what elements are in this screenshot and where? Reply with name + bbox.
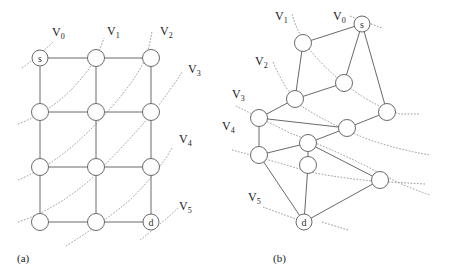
node-a30 bbox=[32, 214, 49, 231]
panel-b-level-labels: V0V1V2V3V4V5 bbox=[222, 9, 346, 206]
edge-b10-d bbox=[304, 180, 380, 222]
level-curve-v3 bbox=[18, 72, 182, 222]
panel-a-edges bbox=[40, 58, 151, 222]
node-a21 bbox=[88, 159, 105, 176]
level-label-v3: V3 bbox=[232, 87, 245, 103]
edge-b7-b10 bbox=[308, 143, 380, 180]
edge-s-b4 bbox=[362, 24, 387, 112]
level-label-v3: V3 bbox=[188, 62, 201, 78]
node-b8 bbox=[251, 147, 268, 164]
node-label-s: s bbox=[38, 53, 42, 64]
node-a02 bbox=[143, 50, 160, 67]
node-b7 bbox=[300, 135, 317, 152]
node-a11 bbox=[88, 104, 105, 121]
edge-b8-d bbox=[259, 155, 304, 222]
level-label-v5: V5 bbox=[248, 190, 261, 206]
panel-b-nodes: sd bbox=[251, 16, 396, 230]
edge-s-b1 bbox=[303, 24, 362, 43]
level-curve-b-v2 bbox=[273, 62, 430, 155]
edge-b5-b6 bbox=[259, 118, 347, 128]
node-a31 bbox=[88, 214, 105, 231]
level-label-v0: V0 bbox=[52, 25, 65, 41]
node-b4 bbox=[379, 104, 396, 121]
node-a12 bbox=[143, 104, 160, 121]
edge-s-b2 bbox=[344, 24, 362, 83]
panel-a-level-labels: V0V1V2V3V4V5 bbox=[52, 24, 201, 215]
panel-b-caption: (b) bbox=[273, 252, 286, 265]
diagram-canvas: sd sd V0V1V2V3V4V5 V0V1V2V3V4V5 (a) (b) bbox=[0, 0, 460, 276]
level-label-v2: V2 bbox=[160, 24, 173, 40]
node-a22 bbox=[143, 159, 160, 176]
node-a10 bbox=[32, 104, 49, 121]
level-label-v5: V5 bbox=[179, 199, 192, 215]
node-label-d: d bbox=[149, 217, 154, 228]
node-b5 bbox=[251, 110, 268, 127]
level-label-v2: V2 bbox=[255, 54, 268, 70]
node-b1 bbox=[295, 35, 312, 52]
level-label-v4: V4 bbox=[222, 119, 235, 135]
level-label-v4: V4 bbox=[179, 132, 192, 148]
node-a20 bbox=[32, 159, 49, 176]
level-label-v0: V0 bbox=[333, 9, 346, 25]
level-curve-b-tail bbox=[322, 222, 348, 230]
node-label-s: s bbox=[360, 19, 364, 30]
node-label-d: d bbox=[302, 217, 307, 228]
node-b3 bbox=[287, 91, 304, 108]
panel-b-edges bbox=[259, 24, 387, 222]
level-label-v1: V1 bbox=[275, 9, 288, 25]
level-label-v1: V1 bbox=[107, 24, 120, 40]
panel-a-caption: (a) bbox=[17, 252, 30, 265]
node-a01 bbox=[88, 50, 105, 67]
node-b10 bbox=[372, 172, 389, 189]
node-b2 bbox=[336, 75, 353, 92]
node-b9 bbox=[300, 157, 317, 174]
node-b6 bbox=[339, 120, 356, 137]
